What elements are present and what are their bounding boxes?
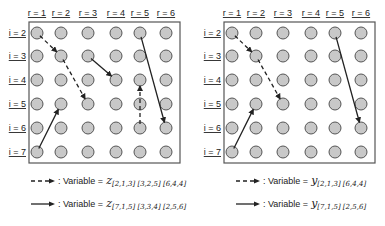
grid-node (82, 27, 94, 39)
dashed-arrow (40, 36, 57, 52)
grid-node (305, 74, 317, 86)
grid-node (355, 98, 367, 110)
grid-node (31, 146, 43, 158)
legend-dashed-subscript: [2,1,3] [6,4,4] (317, 180, 366, 188)
grid-node (329, 98, 341, 110)
row-label: i = 2 (204, 28, 221, 38)
grid-node (277, 74, 289, 86)
grid-node (55, 27, 67, 39)
grid-node (110, 50, 122, 62)
legend-dashed-label: : Variable = (58, 176, 103, 186)
row-label: i = 5 (204, 99, 221, 109)
grid-node (305, 50, 317, 62)
solid-arrow (91, 59, 111, 76)
row-label: i = 6 (9, 123, 26, 133)
grid-node (110, 122, 122, 134)
column-label: r = 3 (274, 8, 292, 18)
grid-node (160, 50, 172, 62)
y-variable-diagram: r = 1r = 2r = 3r = 4r = 5r = 6i = 2i = 3… (195, 0, 385, 226)
grid-node (226, 122, 238, 134)
solid-arrow-icon (30, 200, 56, 208)
grid-node (277, 98, 289, 110)
grid-node (355, 27, 367, 39)
grid-node (82, 146, 94, 158)
column-label: r = 3 (79, 8, 97, 18)
column-label: r = 2 (52, 8, 70, 18)
y-grid-graph: r = 1r = 2r = 3r = 4r = 5r = 6i = 2i = 3… (195, 0, 385, 170)
grid-node (355, 146, 367, 158)
grid-node (55, 122, 67, 134)
z-grid-graph: r = 1r = 2r = 3r = 4r = 5r = 6i = 2i = 3… (0, 0, 192, 170)
grid-node (305, 98, 317, 110)
grid-node (329, 74, 341, 86)
grid-node (160, 146, 172, 158)
grid-node (110, 74, 122, 86)
grid-node (55, 50, 67, 62)
grid-node (250, 122, 262, 134)
column-label: r = 6 (352, 8, 370, 18)
grid-node (355, 74, 367, 86)
grid-node (250, 146, 262, 158)
grid-node (55, 74, 67, 86)
column-label: r = 4 (302, 8, 320, 18)
grid-node (226, 74, 238, 86)
grid-node (355, 50, 367, 62)
legend-solid-label: : Variable = (263, 199, 308, 209)
column-label: r = 5 (131, 8, 149, 18)
grid-node (250, 98, 262, 110)
grid-node (226, 50, 238, 62)
column-label: r = 6 (157, 8, 175, 18)
grid-node (305, 27, 317, 39)
grid-node (31, 50, 43, 62)
grid-node (55, 146, 67, 158)
row-label: i = 5 (9, 99, 26, 109)
dashed-arrow (235, 36, 252, 52)
grid-node (277, 50, 289, 62)
grid-node (31, 98, 43, 110)
grid-node (110, 27, 122, 39)
grid-node (134, 146, 146, 158)
grid-node (250, 27, 262, 39)
grid-node (31, 74, 43, 86)
column-label: r = 4 (107, 8, 125, 18)
row-label: i = 2 (9, 28, 26, 38)
grid-node (110, 98, 122, 110)
grid-node (355, 122, 367, 134)
column-label: r = 1 (28, 8, 46, 18)
grid-node (250, 50, 262, 62)
grid-node (226, 98, 238, 110)
row-label: i = 4 (9, 75, 26, 85)
dashed-arrow-icon (30, 177, 56, 185)
grid-node (305, 122, 317, 134)
grid-node (160, 27, 172, 39)
column-label: r = 5 (326, 8, 344, 18)
grid-node (134, 74, 146, 86)
grid-node (160, 98, 172, 110)
legend-solid: : Variable = z [7,1,5] [3,3,4] [2,5,6] (30, 197, 186, 210)
grid-node (134, 50, 146, 62)
grid-node (160, 122, 172, 134)
solid-arrow-icon (235, 200, 261, 208)
grid-node (329, 146, 341, 158)
grid-node (329, 50, 341, 62)
grid-node (305, 146, 317, 158)
legend-solid-label: : Variable = (58, 199, 103, 209)
legend-solid-subscript: [7,1,5] [3,3,4] [2,5,6] (112, 203, 186, 211)
row-label: i = 4 (204, 75, 221, 85)
grid-border (29, 22, 180, 163)
grid-node (160, 74, 172, 86)
legend-dashed-subscript: [2,1,3] [3,2,5] [6,4,4] (112, 180, 186, 188)
grid-node (277, 122, 289, 134)
z-variable-diagram: r = 1r = 2r = 3r = 4r = 5r = 6i = 2i = 3… (0, 0, 192, 226)
grid-node (134, 27, 146, 39)
grid-node (329, 27, 341, 39)
grid-node (329, 122, 341, 134)
row-label: i = 6 (204, 123, 221, 133)
grid-node (82, 122, 94, 134)
grid-node (277, 27, 289, 39)
row-label: i = 3 (204, 51, 221, 61)
legend-dashed: : Variable = y [2,1,3] [6,4,4] (235, 174, 366, 187)
grid-node (31, 122, 43, 134)
legend-solid: : Variable = y [7,1,5] [2,5,6] (235, 197, 366, 210)
grid-border (224, 22, 375, 163)
